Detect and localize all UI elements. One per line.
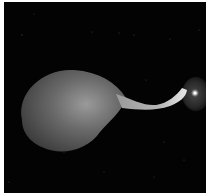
diffuse-lobe xyxy=(21,70,126,152)
image-panel xyxy=(4,2,206,193)
astronomy-image xyxy=(4,2,206,193)
jet xyxy=(116,88,187,110)
